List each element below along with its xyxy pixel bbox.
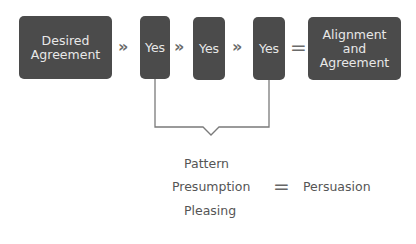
term-pleasing: Pleasing [184,203,236,219]
result-persuasion: Persuasion [303,179,371,195]
equation-equals-sign: = [273,176,290,196]
term-presumption: Presumption [172,179,250,195]
term-pattern: Pattern [184,156,229,172]
